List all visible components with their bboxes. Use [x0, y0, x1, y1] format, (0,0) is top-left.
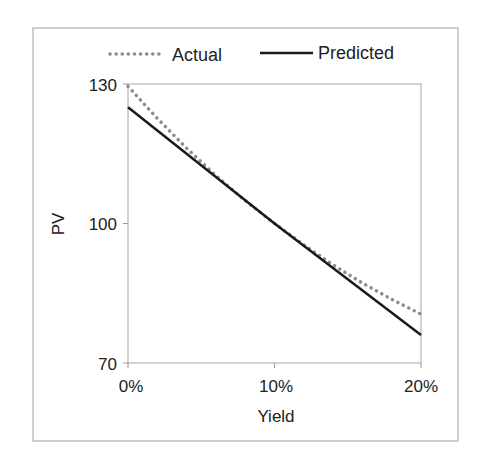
- legend-predicted-label: Predicted: [318, 43, 394, 63]
- y-tick-130: 130: [89, 76, 117, 95]
- x-tick-10: 10%: [259, 377, 293, 396]
- x-tick-0: 0%: [119, 377, 144, 396]
- x-axis-label: Yield: [257, 407, 294, 426]
- x-tick-20: 20%: [404, 377, 438, 396]
- legend-actual-label: Actual: [172, 45, 222, 65]
- chart: Actual Predicted 130 100 70 PV 0% 10% 20…: [0, 0, 484, 463]
- y-axis-label: PV: [49, 212, 68, 235]
- y-tick-100: 100: [89, 215, 117, 234]
- y-tick-70: 70: [98, 355, 117, 374]
